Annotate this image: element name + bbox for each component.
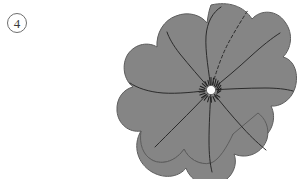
- figure-container: 4: [0, 0, 305, 179]
- flower-center-disc: [206, 85, 215, 94]
- stamen-tick: [213, 78, 214, 85]
- flower-figure-svg: 4: [0, 0, 305, 179]
- figure-label-number: 4: [14, 16, 21, 31]
